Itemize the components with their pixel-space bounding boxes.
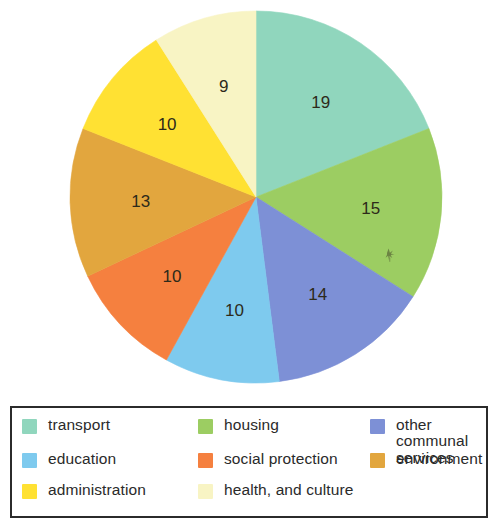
legend-swatch-health-and-culture: [198, 484, 213, 499]
legend-item-social-protection[interactable]: social protection: [198, 451, 370, 468]
legend-item-transport[interactable]: transport: [22, 417, 198, 434]
legend-label-housing: housing: [224, 417, 279, 433]
legend-grid: transport housing other communal service…: [22, 417, 480, 513]
legend-swatch-education: [22, 453, 37, 468]
legend-label-environment: environment: [396, 451, 482, 467]
pie-slice-value-health-and-culture: 9: [219, 77, 228, 96]
legend-label-administration: administration: [48, 482, 146, 498]
legend-item-administration[interactable]: administration: [22, 482, 198, 499]
legend-swatch-social-protection: [198, 453, 213, 468]
legend-label-health-and-culture: health, and culture: [224, 482, 353, 498]
legend-swatch-housing: [198, 419, 213, 434]
pie-slice-value-social-protection: 10: [162, 267, 181, 286]
legend-label-transport: transport: [48, 417, 110, 433]
pie-slices-group: [70, 11, 442, 383]
legend-item-environment[interactable]: environment: [370, 451, 482, 468]
pie-slice-value-other-communal-services: 14: [308, 285, 327, 304]
legend-swatch-environment: [370, 453, 385, 468]
pie-slice-value-environment: 13: [131, 192, 150, 211]
legend-swatch-administration: [22, 484, 37, 499]
legend-swatch-other-communal-services: [370, 419, 385, 434]
pie-slice-value-housing: 15: [361, 199, 380, 218]
pie-slice-value-transport: 19: [311, 93, 330, 112]
legend-swatch-transport: [22, 419, 37, 434]
pie-chart-svg: 191514101013109: [0, 0, 498, 396]
legend: transport housing other communal service…: [10, 406, 488, 518]
legend-item-housing[interactable]: housing: [198, 417, 370, 434]
legend-label-education: education: [48, 451, 116, 467]
legend-label-social-protection: social protection: [224, 451, 338, 467]
legend-item-health-and-culture[interactable]: health, and culture: [198, 482, 370, 499]
pie-slice-value-education: 10: [225, 301, 244, 320]
legend-item-education[interactable]: education: [22, 451, 198, 468]
pie-chart-area: 191514101013109: [0, 0, 498, 396]
pie-slice-value-administration: 10: [158, 115, 177, 134]
